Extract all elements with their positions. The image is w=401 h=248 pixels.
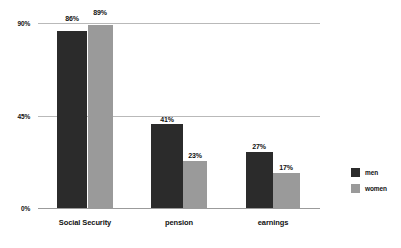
legend-item-women: women: [351, 184, 387, 193]
bar-women-pension: [183, 161, 207, 208]
y-axis-tick-label: 0%: [21, 205, 30, 212]
bar-men-social-security: [57, 31, 87, 208]
legend-swatch-icon-women: [351, 184, 360, 193]
legend-label-women: women: [365, 185, 387, 192]
bar-men-earnings: [246, 152, 273, 208]
bar-men-pension: [151, 124, 183, 208]
y-axis-tick-0: 0%: [0, 205, 30, 212]
legend-item-men: men: [351, 168, 387, 177]
bar-value-label-men-earnings: 27%: [252, 143, 265, 150]
x-axis-label-social-security: Social Security: [59, 218, 111, 227]
bar-women-earnings: [273, 173, 300, 208]
bar-women-social-security: [88, 25, 113, 208]
y-axis-tick-label: 90%: [18, 20, 30, 27]
y-axis-tick-90: 90%: [0, 20, 30, 27]
y-axis-tick-label: 45%: [18, 113, 30, 120]
chart-legend: men women: [351, 168, 387, 200]
bar-value-label-women-social-security: 89%: [93, 9, 106, 16]
bar-value-label-women-pension: 23%: [188, 152, 201, 159]
bar-value-label-men-social-security: 86%: [65, 15, 78, 22]
axis-baseline: [38, 208, 320, 209]
plot-area: 86% 89% 41% 23% 27% 17% Social Security …: [38, 23, 320, 208]
legend-label-men: men: [365, 169, 378, 176]
legend-swatch-icon-men: [351, 168, 360, 177]
bar-value-label-men-pension: 41%: [160, 116, 173, 123]
y-axis-tick-45: 45%: [0, 113, 30, 120]
bar-chart: 90% 45% 0% 86% 89% 41% 23% 27% 17%: [0, 0, 401, 248]
bar-value-label-women-earnings: 17%: [279, 164, 292, 171]
x-axis-label-earnings: earnings: [258, 218, 288, 227]
x-axis-label-pension: pension: [165, 218, 193, 227]
gridline-90: [38, 23, 320, 24]
